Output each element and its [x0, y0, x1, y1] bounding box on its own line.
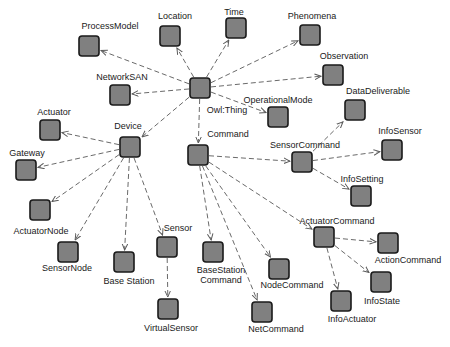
- node-label: Phenomena: [288, 11, 337, 21]
- node-label: Command: [207, 129, 249, 139]
- node-actuator-command[interactable]: ActuatorCommand: [299, 216, 374, 247]
- node-observation[interactable]: Observation: [320, 51, 369, 85]
- edge-device-to-sensor: [134, 158, 162, 235]
- node-box[interactable]: [345, 100, 365, 120]
- node-box[interactable]: [203, 242, 223, 262]
- node-label: DataDeliverable: [346, 86, 410, 96]
- edge-owl_thing-to-location: [177, 48, 194, 77]
- node-label: InfoState: [364, 296, 400, 306]
- node-label: Actuator: [37, 107, 71, 117]
- node-label: Base Station: [103, 276, 154, 286]
- node-label: Owl:Thing: [207, 105, 248, 115]
- node-basestation-command[interactable]: BaseStationCommand: [197, 242, 246, 285]
- node-label-line2: Command: [200, 275, 242, 285]
- node-info-setting[interactable]: InfoSetting: [340, 174, 383, 206]
- node-network-san[interactable]: NetworkSAN: [96, 72, 148, 105]
- node-label: InfoActuator: [328, 314, 377, 324]
- node-box[interactable]: [190, 78, 210, 98]
- node-label: Gateway: [9, 148, 45, 158]
- node-box[interactable]: [40, 120, 60, 140]
- node-info-sensor[interactable]: InfoSensor: [378, 126, 422, 160]
- node-label: Sensor: [164, 223, 193, 233]
- node-box[interactable]: [79, 36, 99, 56]
- node-time[interactable]: Time: [224, 7, 246, 38]
- node-box[interactable]: [252, 302, 272, 322]
- nodes-layer: Owl:ThingProcessModelLocationTimePhenome…: [9, 7, 441, 334]
- node-label: Location: [158, 11, 192, 21]
- node-sensor-command[interactable]: SensorCommand: [270, 140, 340, 172]
- node-label: InfoSensor: [378, 126, 422, 136]
- edge-device-to-sensor_node: [75, 158, 123, 240]
- node-label: OperationalMode: [243, 95, 312, 105]
- node-label: Observation: [320, 51, 369, 61]
- node-box[interactable]: [382, 140, 402, 160]
- node-box[interactable]: [371, 272, 391, 292]
- node-gateway[interactable]: Gateway: [9, 148, 45, 180]
- node-owl-thing[interactable]: Owl:Thing: [190, 78, 247, 115]
- node-box[interactable]: [160, 26, 180, 46]
- node-box[interactable]: [323, 65, 343, 85]
- node-actuator[interactable]: Actuator: [37, 107, 71, 140]
- node-box[interactable]: [16, 160, 36, 180]
- edge-sensor_command-to-info_sensor: [313, 152, 380, 161]
- node-box[interactable]: [158, 299, 178, 319]
- edge-device-to-base_station: [125, 158, 130, 250]
- node-label: ActionCommand: [375, 255, 442, 265]
- node-device[interactable]: Device: [114, 121, 142, 157]
- node-data-deliverable[interactable]: DataDeliverable: [345, 86, 410, 120]
- node-box[interactable]: [268, 107, 288, 127]
- node-phenomena[interactable]: Phenomena: [288, 11, 337, 45]
- node-box[interactable]: [114, 252, 134, 272]
- node-label: Device: [114, 121, 142, 131]
- node-box[interactable]: [351, 186, 371, 206]
- node-action-command[interactable]: ActionCommand: [375, 233, 442, 265]
- node-box[interactable]: [378, 233, 398, 253]
- node-label: BaseStation: [197, 265, 246, 275]
- node-box[interactable]: [269, 259, 289, 279]
- edge-actuator_command-to-info_actuator: [327, 248, 338, 289]
- edge-actuator_command-to-info_state: [335, 246, 369, 273]
- node-command[interactable]: Command: [188, 129, 249, 165]
- node-virtual-sensor[interactable]: VirtualSensor: [144, 299, 198, 333]
- node-location[interactable]: Location: [158, 11, 192, 46]
- node-box[interactable]: [292, 152, 312, 172]
- node-box[interactable]: [110, 85, 130, 105]
- node-box[interactable]: [188, 145, 208, 165]
- node-box[interactable]: [331, 291, 351, 311]
- node-process-model[interactable]: ProcessModel: [79, 21, 139, 56]
- node-box[interactable]: [30, 200, 50, 220]
- edge-owl_thing-to-observation: [211, 76, 321, 87]
- edge-command-to-sensor_command: [209, 156, 290, 161]
- edge-owl_thing-to-device: [142, 97, 189, 137]
- node-box[interactable]: [120, 137, 140, 157]
- node-box[interactable]: [300, 25, 320, 45]
- node-node-command[interactable]: NodeCommand: [260, 259, 323, 290]
- edge-command-to-basestation_command: [200, 166, 211, 240]
- node-label: SensorCommand: [270, 140, 340, 150]
- node-info-state[interactable]: InfoState: [364, 272, 400, 306]
- edge-device-to-gateway: [38, 149, 119, 167]
- node-actuator-node[interactable]: ActuatorNode: [13, 200, 68, 236]
- node-sensor[interactable]: Sensor: [157, 223, 192, 257]
- node-label: Time: [224, 7, 244, 17]
- node-sensor-node[interactable]: SensorNode: [42, 242, 92, 273]
- node-label: ActuatorCommand: [299, 216, 374, 226]
- node-base-station[interactable]: Base Station: [103, 252, 154, 286]
- edge-actuator_command-to-action_command: [335, 238, 376, 242]
- ontology-diagram: Owl:ThingProcessModelLocationTimePhenome…: [0, 0, 450, 347]
- node-box[interactable]: [226, 18, 246, 38]
- node-box[interactable]: [157, 237, 177, 257]
- node-label: NetCommand: [248, 324, 304, 334]
- node-operational-mode[interactable]: OperationalMode: [243, 95, 312, 127]
- edge-owl_thing-to-command: [198, 99, 199, 143]
- edge-owl_thing-to-time: [207, 40, 229, 77]
- node-box[interactable]: [314, 227, 334, 247]
- edge-sensor-to-virtual_sensor: [167, 258, 168, 297]
- node-label: VirtualSensor: [144, 323, 198, 333]
- node-label: ActuatorNode: [13, 226, 68, 236]
- node-label: SensorNode: [42, 263, 92, 273]
- node-label: InfoSetting: [340, 174, 383, 184]
- node-box[interactable]: [58, 242, 78, 262]
- node-label: NetworkSAN: [96, 72, 148, 82]
- node-net-command[interactable]: NetCommand: [248, 302, 304, 334]
